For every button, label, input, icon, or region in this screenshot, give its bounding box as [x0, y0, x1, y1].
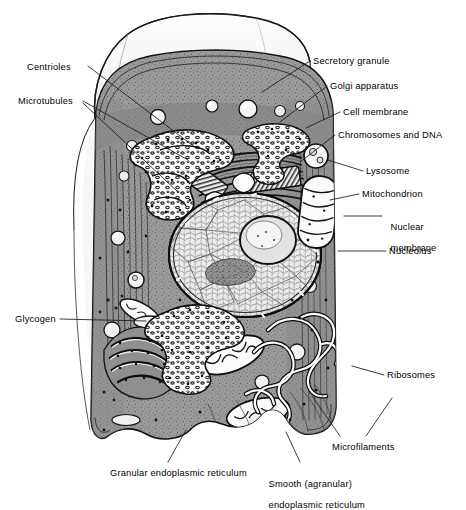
label-mitochondrion: Mitochondrion [362, 189, 423, 200]
label-smooth-er-line1: Smooth (agranular) [269, 479, 352, 489]
label-nucleolus: Nucleolus [389, 246, 432, 257]
ribosomes-leader [352, 366, 384, 375]
label-centrioles: Centrioles [27, 62, 71, 73]
label-secretory-granule: Secretory granule [313, 56, 390, 67]
label-smooth-er: Smooth (agranular) endoplasmic reticulum [263, 468, 365, 510]
label-chromosomes-and-dna: Chromosomes and DNA [338, 130, 442, 141]
label-cell-membrane: Cell membrane [343, 107, 408, 118]
label-glycogen: Glycogen [15, 314, 56, 325]
label-granular-er: Granular endoplasmic reticulum [110, 468, 247, 479]
smooth-er-leader [286, 432, 300, 462]
microfilaments-leader-b [366, 398, 392, 436]
label-smooth-er-line2: endoplasmic reticulum [269, 500, 365, 510]
label-ribosomes: Ribosomes [387, 370, 435, 381]
label-nuclear-membrane-line1: Nuclear [391, 222, 424, 232]
label-microfilaments: Microfilaments [332, 442, 395, 453]
label-lysosome: Lysosome [366, 166, 410, 177]
label-golgi-apparatus: Golgi apparatus [330, 81, 398, 92]
label-microtubules: Microtubules [18, 96, 73, 107]
nucleolus [240, 216, 296, 264]
